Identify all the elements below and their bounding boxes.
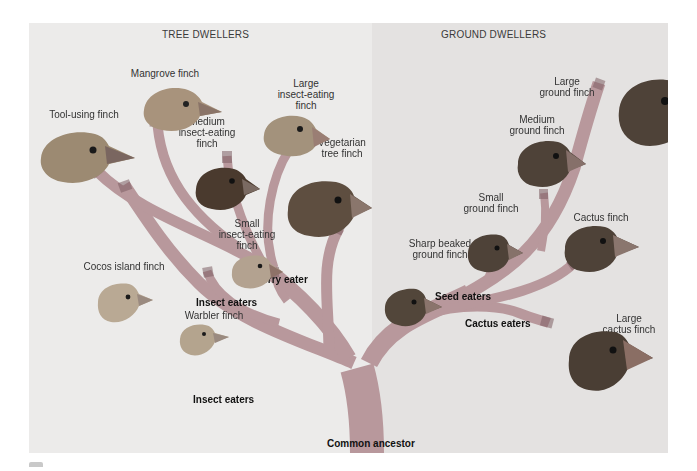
medium-insect-eating-finch-head-icon — [192, 163, 262, 215]
tool-using-finch-head-icon — [37, 124, 137, 188]
label-small-ground-finch: Small ground finch — [451, 192, 531, 214]
large-cactus-finch-head-icon — [565, 326, 655, 396]
section-title-tree-dwellers: TREE DWELLERS — [162, 29, 249, 40]
label-mangrove-finch: Mangrove finch — [115, 68, 215, 79]
sharp-beaked-ground-finch-head-icon — [382, 285, 444, 329]
section-title-ground-dwellers: GROUND DWELLERS — [441, 29, 546, 40]
cactus-finch-head-icon — [561, 221, 641, 277]
label-tool-using-finch: Tool-using finch — [29, 109, 139, 120]
label-large-insect-eating-finch: Large insect-eating finch — [266, 78, 346, 111]
label-medium-ground-finch: Medium ground finch — [497, 114, 577, 136]
large-insect-eating-finch-head-icon — [260, 111, 332, 161]
group-label-insect-eaters-upper: Insect eaters — [196, 297, 257, 308]
group-label-common-ancestor: Common ancestor — [327, 438, 415, 449]
cocos-island-finch-head-icon — [95, 280, 155, 326]
label-large-ground-finch: Large ground finch — [527, 76, 607, 98]
large-ground-finch-head-icon — [615, 73, 668, 151]
small-insect-eating-finch-head-icon — [229, 252, 285, 292]
small-ground-finch-head-icon — [465, 231, 525, 275]
vegetarian-tree-finch-head-icon — [284, 176, 374, 244]
medium-ground-finch-head-icon — [514, 136, 588, 192]
label-small-insect-eating-finch: Small insect-eating finch — [207, 218, 287, 251]
group-label-cactus-eaters: Cactus eaters — [465, 318, 531, 329]
finch-evolution-diagram: TREE DWELLERS GROUND DWELLERS Mangrove f… — [29, 23, 668, 453]
group-label-insect-eaters-lower: Insect eaters — [193, 394, 254, 405]
warbler-finch-head-icon — [177, 321, 231, 359]
label-cocos-island-finch: Cocos island finch — [69, 261, 179, 272]
mangrove-finch-head-icon — [140, 82, 224, 136]
label-warbler-finch: Warbler finch — [174, 310, 254, 321]
figure-corner-marker — [29, 462, 43, 467]
